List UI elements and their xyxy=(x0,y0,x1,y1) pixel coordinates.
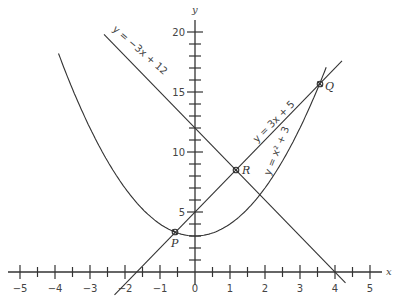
graph-canvas: −5−4−3−2−1012345 5101520 x y y = −3x + 1… xyxy=(0,0,397,305)
x-tick-label: −3 xyxy=(83,283,98,294)
x-tick-label: 0 xyxy=(192,283,198,294)
y-tick-label: 10 xyxy=(172,147,185,158)
point-r-label: R xyxy=(241,164,250,177)
equation-labels: y = −3x + 12 y = 3x + 5 y = x² + 3 xyxy=(111,23,297,177)
y-ticks: 5101520 xyxy=(172,27,203,260)
point-p-label: P xyxy=(170,237,179,250)
point-q: Q xyxy=(317,80,334,93)
y-tick-label: 20 xyxy=(172,27,185,38)
equation-label-3x-plus-5: y = 3x + 5 xyxy=(251,98,297,144)
x-tick-label: 1 xyxy=(227,283,233,294)
x-tick-label: 4 xyxy=(332,283,338,294)
axes: −5−4−3−2−1012345 5101520 x y xyxy=(8,4,392,294)
x-tick-label: 5 xyxy=(367,283,373,294)
x-ticks: −5−4−3−2−1012345 xyxy=(13,265,374,294)
x-tick-label: 3 xyxy=(297,283,303,294)
x-tick-label: −5 xyxy=(13,283,28,294)
x-tick-label: 2 xyxy=(262,283,268,294)
parabola-curve xyxy=(59,54,327,237)
x-axis-label: x xyxy=(386,266,392,277)
point-q-label: Q xyxy=(325,80,334,93)
curves xyxy=(59,34,346,294)
line-neg3x-plus-12 xyxy=(104,34,346,282)
x-tick-label: −1 xyxy=(153,283,168,294)
y-tick-label: 5 xyxy=(179,207,185,218)
y-tick-label: 15 xyxy=(172,87,185,98)
y-axis-label: y xyxy=(191,4,198,15)
point-r: R xyxy=(233,164,250,177)
line-3x-plus-5 xyxy=(115,61,343,295)
x-tick-label: −4 xyxy=(48,283,63,294)
